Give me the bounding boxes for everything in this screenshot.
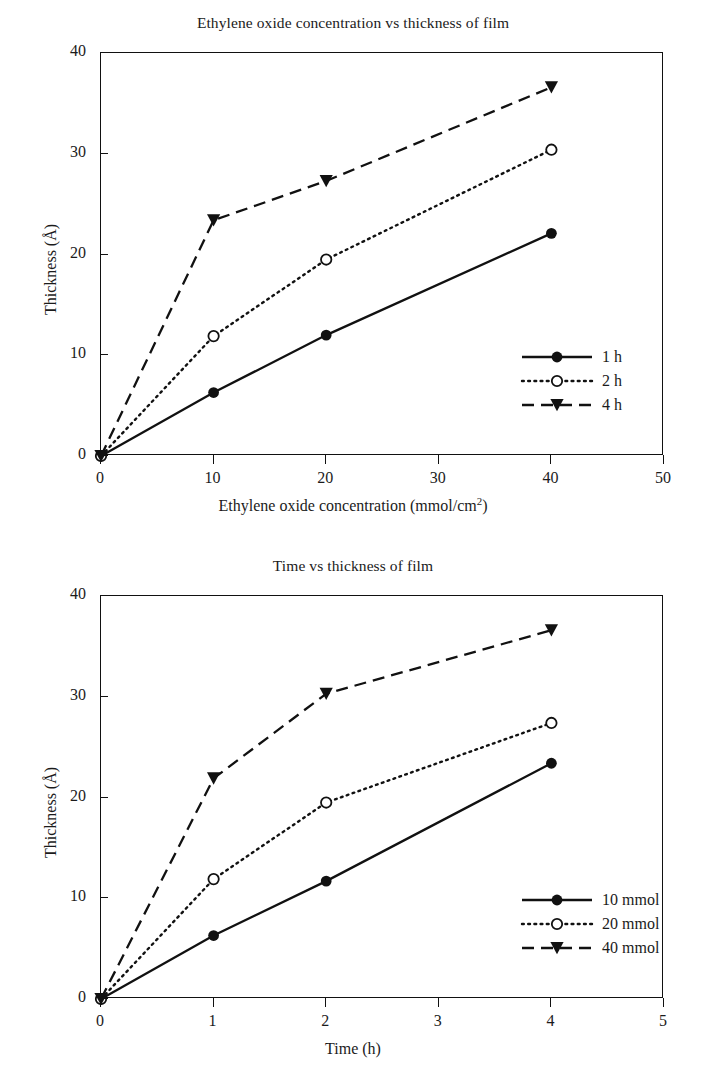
y-axis-tick: [100, 797, 108, 798]
y-axis-tick: [100, 455, 108, 456]
data-point-marker: [320, 175, 333, 187]
data-point-marker: [208, 387, 219, 398]
y-axis-title-suffix: ): [42, 767, 59, 772]
y-axis-tick: [100, 52, 108, 53]
y-axis-tick: [100, 595, 108, 596]
x-axis-tick-label: 5: [638, 1012, 688, 1030]
x-axis-tick-label: 10: [188, 469, 238, 487]
x-axis-tick: [325, 998, 326, 1007]
x-axis-tick: [550, 455, 551, 464]
y-axis-tick-label: 10: [40, 344, 86, 362]
legend-label: 20 mmol: [594, 915, 659, 933]
chart-title: Time vs thickness of film: [0, 557, 706, 575]
x-axis-tick-label: 50: [638, 469, 688, 487]
x-axis-tick-label: 0: [75, 469, 125, 487]
x-axis-tick: [100, 998, 101, 1007]
y-axis-tick: [100, 254, 108, 255]
legend-key: [520, 395, 594, 415]
x-axis-tick-label: 20: [300, 469, 350, 487]
y-axis-tick: [100, 696, 108, 697]
legend-item: 2 h: [520, 369, 622, 393]
legend-item: 40 mmol: [520, 936, 659, 960]
data-point-marker: [546, 718, 556, 728]
x-axis-title-prefix: Ethylene oxide concentration (mmol/cm: [219, 497, 477, 514]
x-axis-tick-label: 2: [300, 1012, 350, 1030]
y-axis-tick: [100, 897, 108, 898]
y-axis-title-suffix: ): [42, 224, 59, 229]
x-axis-tick-label: 30: [413, 469, 463, 487]
y-axis-tick: [100, 153, 108, 154]
legend-key: [520, 914, 594, 934]
x-axis-tick-label: 4: [525, 1012, 575, 1030]
data-point-marker: [552, 895, 563, 906]
y-axis-title: Thickness (Å): [42, 767, 60, 858]
series-line: [101, 233, 551, 456]
y-axis-tick: [100, 998, 108, 999]
figure-page: Ethylene oxide concentration vs thicknes…: [0, 0, 706, 1086]
data-point-marker: [546, 145, 556, 155]
legend-item: 4 h: [520, 393, 622, 417]
x-axis-tick-label: 0: [75, 1012, 125, 1030]
x-axis-title: Time (h): [0, 1040, 706, 1058]
data-point-marker: [546, 228, 557, 239]
legend-label: 2 h: [594, 372, 622, 390]
data-point-marker: [208, 874, 218, 884]
y-axis-title: Thickness (Å): [42, 224, 60, 315]
y-axis-title-prefix: Thickness (: [42, 241, 59, 315]
x-axis-tick-label: 1: [188, 1012, 238, 1030]
x-axis-tick: [100, 455, 101, 464]
x-axis-title-suffix: ): [482, 497, 487, 514]
y-axis-tick-label: 0: [40, 445, 86, 463]
x-axis-tick: [438, 998, 439, 1007]
x-axis-tick: [438, 455, 439, 464]
legend-item: 20 mmol: [520, 912, 659, 936]
data-point-marker: [208, 930, 219, 941]
x-axis-tick: [325, 455, 326, 464]
series-line: [101, 87, 551, 456]
chart-ethylene-oxide-concentration-vs-thickness: Ethylene oxide concentration vs thicknes…: [0, 0, 706, 543]
data-point-marker: [545, 624, 558, 636]
chart-time-vs-thickness: Time vs thickness of film 01020304001234…: [0, 543, 706, 1086]
x-axis-tick: [213, 998, 214, 1007]
legend-key: [520, 938, 594, 958]
y-axis-tick-label: 0: [40, 988, 86, 1006]
legend-label: 10 mmol: [594, 891, 659, 909]
data-point-marker: [208, 331, 218, 341]
x-axis-tick-label: 3: [413, 1012, 463, 1030]
y-axis-title-prefix: Thickness (: [42, 784, 59, 858]
legend: 10 mmol20 mmol40 mmol: [520, 888, 659, 960]
y-axis-tick-label: 10: [40, 887, 86, 905]
data-point-marker: [207, 214, 220, 226]
data-point-marker: [207, 772, 220, 784]
y-axis-tick-label: 30: [40, 686, 86, 704]
legend-item: 1 h: [520, 345, 622, 369]
legend-key: [520, 890, 594, 910]
legend-item: 10 mmol: [520, 888, 659, 912]
x-axis-tick: [663, 455, 664, 464]
angstrom-unit: Å: [42, 229, 59, 241]
data-point-marker: [321, 876, 332, 887]
data-point-marker: [552, 352, 563, 363]
y-axis-tick-label: 40: [40, 42, 86, 60]
legend-key: [520, 371, 594, 391]
legend-label: 40 mmol: [594, 939, 659, 957]
data-point-marker: [552, 376, 562, 386]
data-point-marker: [552, 919, 562, 929]
series-line: [101, 723, 551, 999]
series-line: [101, 630, 551, 999]
data-point-marker: [321, 797, 331, 807]
angstrom-unit: Å: [42, 772, 59, 784]
legend-label: 4 h: [594, 396, 622, 414]
data-point-marker: [321, 254, 331, 264]
data-point-marker: [546, 758, 557, 769]
legend: 1 h2 h4 h: [520, 345, 622, 417]
x-axis-title: Ethylene oxide concentration (mmol/cm2): [0, 497, 706, 515]
y-axis-tick-label: 30: [40, 143, 86, 161]
y-axis-tick: [100, 354, 108, 355]
y-axis-tick-label: 40: [40, 585, 86, 603]
x-axis-tick-label: 40: [525, 469, 575, 487]
x-axis-tick: [550, 998, 551, 1007]
series-line: [101, 150, 551, 456]
x-axis-tick: [213, 455, 214, 464]
chart-title: Ethylene oxide concentration vs thicknes…: [0, 14, 706, 32]
